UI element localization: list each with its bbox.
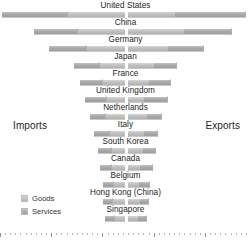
row-bars <box>0 79 251 86</box>
left-goods-segment[interactable] <box>111 164 125 171</box>
left-goods-segment[interactable] <box>105 113 125 120</box>
axis-tick-minor <box>190 233 191 235</box>
right-services-segment[interactable] <box>175 11 245 18</box>
left-services-segment[interactable] <box>2 11 67 18</box>
imports-bar[interactable] <box>105 215 125 222</box>
exports-bar[interactable] <box>128 130 159 137</box>
axis-tick-minor <box>159 233 160 235</box>
exports-bar[interactable] <box>128 215 148 222</box>
imports-bar[interactable] <box>49 45 124 52</box>
exports-bar[interactable] <box>128 164 154 171</box>
right-goods-segment[interactable] <box>128 198 141 205</box>
legend-item-goods[interactable]: Goods <box>21 193 61 204</box>
exports-bar[interactable] <box>128 28 232 35</box>
left-services-segment[interactable] <box>103 198 112 205</box>
imports-bar[interactable] <box>94 130 125 137</box>
right-services-segment[interactable] <box>184 28 232 35</box>
exports-bar[interactable] <box>128 113 163 120</box>
exports-bar[interactable] <box>128 198 150 205</box>
axis-tick-minor <box>133 233 134 235</box>
left-goods-segment[interactable] <box>67 11 125 18</box>
imports-bar[interactable] <box>2 11 125 18</box>
axis-tick-minor <box>10 233 11 235</box>
left-goods-segment[interactable] <box>113 181 125 188</box>
right-services-segment[interactable] <box>154 62 177 69</box>
axis-tick-major <box>102 233 103 237</box>
right-goods-segment[interactable] <box>128 79 150 86</box>
right-goods-segment[interactable] <box>128 28 185 35</box>
left-services-segment[interactable] <box>85 96 106 103</box>
exports-bar[interactable] <box>128 147 157 154</box>
left-goods-segment[interactable] <box>102 79 125 86</box>
exports-bar[interactable] <box>128 79 172 86</box>
left-goods-segment[interactable] <box>109 130 125 137</box>
left-goods-segment[interactable] <box>111 147 125 154</box>
left-services-segment[interactable] <box>103 181 113 188</box>
exports-axis-title: Exports <box>205 120 240 132</box>
axis-tick-minor <box>46 233 47 235</box>
imports-bar[interactable] <box>103 181 125 188</box>
exports-bar[interactable] <box>128 62 178 69</box>
right-goods-segment[interactable] <box>128 45 169 52</box>
chart-row: United States <box>0 1 251 18</box>
axis-tick-minor <box>210 233 211 235</box>
row-label: Belgium <box>0 171 251 180</box>
imports-bar[interactable] <box>100 164 125 171</box>
left-services-segment[interactable] <box>49 45 86 52</box>
right-services-segment[interactable] <box>138 215 147 222</box>
imports-bar[interactable] <box>74 62 125 69</box>
legend-item-services[interactable]: Services <box>21 206 61 217</box>
exports-bar[interactable] <box>128 45 204 52</box>
axis-tick-minor <box>108 233 109 235</box>
axis-tick-minor <box>169 233 170 235</box>
imports-bar[interactable] <box>85 96 125 103</box>
right-services-segment[interactable] <box>168 45 204 52</box>
left-goods-segment[interactable] <box>99 62 125 69</box>
left-services-segment[interactable] <box>98 147 111 154</box>
left-services-segment[interactable] <box>105 215 114 222</box>
right-goods-segment[interactable] <box>128 130 145 137</box>
left-services-segment[interactable] <box>100 164 111 171</box>
right-goods-segment[interactable] <box>128 164 141 171</box>
axis-tick-minor <box>220 233 221 235</box>
exports-bar[interactable] <box>128 11 246 18</box>
left-goods-segment[interactable] <box>106 96 125 103</box>
left-services-segment[interactable] <box>90 113 105 120</box>
left-services-segment[interactable] <box>34 28 77 35</box>
right-services-segment[interactable] <box>139 181 150 188</box>
row-bars <box>0 181 251 188</box>
right-goods-segment[interactable] <box>128 147 144 154</box>
left-goods-segment[interactable] <box>86 45 125 52</box>
right-goods-segment[interactable] <box>128 96 145 103</box>
right-goods-segment[interactable] <box>128 215 139 222</box>
right-services-segment[interactable] <box>143 147 156 154</box>
imports-bar[interactable] <box>80 79 125 86</box>
imports-bar[interactable] <box>34 28 124 35</box>
right-goods-segment[interactable] <box>128 113 148 120</box>
right-services-segment[interactable] <box>149 79 171 86</box>
axis-tick-minor <box>179 233 180 235</box>
right-services-segment[interactable] <box>140 164 153 171</box>
right-goods-segment[interactable] <box>128 181 140 188</box>
exports-bar[interactable] <box>128 96 169 103</box>
right-services-segment[interactable] <box>140 198 149 205</box>
right-goods-segment[interactable] <box>128 11 176 18</box>
left-goods-segment[interactable] <box>112 198 125 205</box>
imports-bar[interactable] <box>98 147 125 154</box>
row-label: Germany <box>0 35 251 44</box>
left-goods-segment[interactable] <box>77 28 125 35</box>
right-services-segment[interactable] <box>144 96 168 103</box>
imports-bar[interactable] <box>90 113 125 120</box>
imports-bar[interactable] <box>103 198 125 205</box>
chart-row: France <box>0 69 251 86</box>
left-services-segment[interactable] <box>80 79 102 86</box>
left-goods-segment[interactable] <box>114 215 125 222</box>
right-services-segment[interactable] <box>147 113 162 120</box>
left-services-segment[interactable] <box>94 130 109 137</box>
axis-tick-minor <box>143 233 144 235</box>
row-label: United States <box>0 1 251 10</box>
right-goods-segment[interactable] <box>128 62 155 69</box>
left-services-segment[interactable] <box>74 62 99 69</box>
right-services-segment[interactable] <box>144 130 158 137</box>
exports-bar[interactable] <box>128 181 151 188</box>
